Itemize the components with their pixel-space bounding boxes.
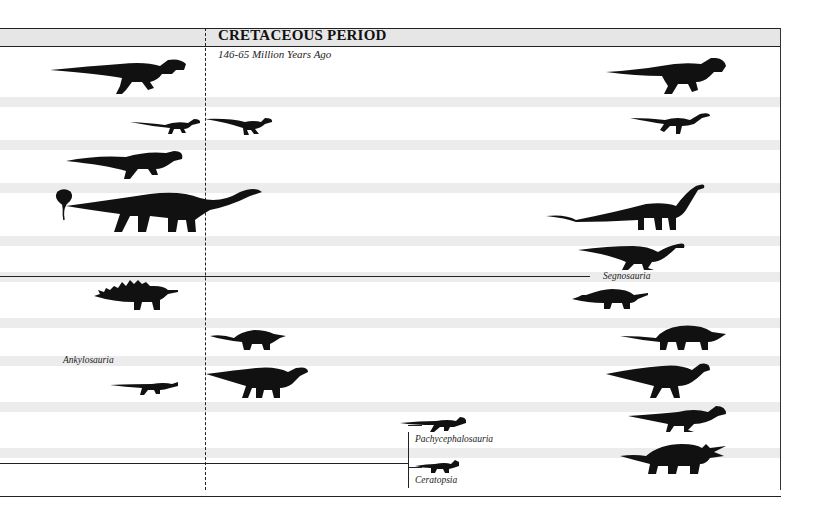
- segnosaur-right-icon: [578, 242, 686, 272]
- ankylosaur-right-icon: [620, 324, 728, 352]
- stegosaur-left-icon: [94, 280, 180, 314]
- pachycephalosaur-right-icon: [628, 406, 728, 434]
- small-ornithopod-left-icon: [110, 380, 180, 396]
- small-theropod-left-icon: [130, 117, 202, 135]
- marginocephalia-branch: [408, 432, 409, 488]
- sauropod-right-icon: [546, 182, 706, 232]
- raptor-mid-icon: [205, 116, 273, 136]
- label-ceratopsia: Ceratopsia: [415, 475, 457, 485]
- nodosaur-mid-icon: [210, 328, 288, 352]
- tyrannosaur-right-icon: [606, 58, 728, 96]
- large-theropod-left-icon: [50, 58, 190, 96]
- label-pachycephalosauria: Pachycephalosauria: [415, 434, 493, 444]
- stegosaur-right-icon: [572, 287, 650, 311]
- row-band: [0, 97, 780, 107]
- iguanodont-mid-icon: [206, 366, 310, 400]
- hadrosaur-right-icon: [606, 362, 712, 400]
- ornithomimid-right-icon: [630, 112, 712, 136]
- label-segnosauria: Segnosauria: [603, 271, 651, 281]
- header-bar: [0, 28, 780, 47]
- pachycephalosaur-mid-icon: [400, 417, 468, 433]
- ceratopsia-branch-line: [0, 463, 408, 464]
- label-ankylosauria: Ankylosauria: [63, 355, 114, 365]
- period-title: CRETACEOUS PERIOD: [218, 27, 387, 44]
- sauropod-left-icon: [50, 186, 264, 236]
- boundary-dashed-line: [205, 28, 206, 490]
- medium-theropod-left-icon: [66, 149, 184, 181]
- triceratops-right-icon: [620, 442, 728, 476]
- protoceratops-mid-icon: [415, 460, 461, 474]
- cretaceous-chart: CRETACEOUS PERIOD 146-65 Million Years A…: [0, 0, 828, 522]
- bottom-border: [0, 496, 781, 497]
- saurischia-ornithischia-divider: [0, 276, 590, 277]
- right-border: [780, 28, 781, 490]
- period-subtitle: 146-65 Million Years Ago: [218, 48, 331, 60]
